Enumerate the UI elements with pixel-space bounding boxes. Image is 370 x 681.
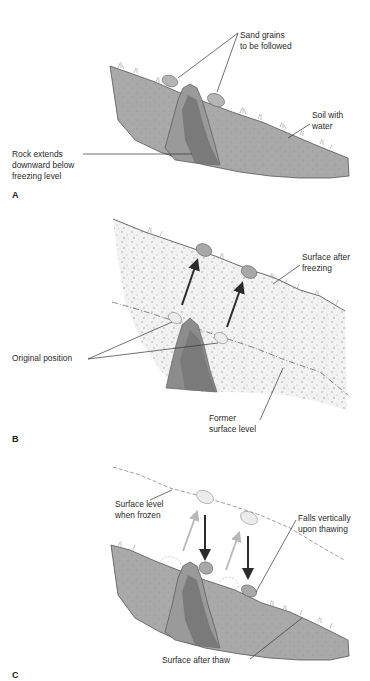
panel-label-c: C: [12, 670, 19, 680]
label-surface-level-when-frozen: Surface level when frozen: [114, 499, 166, 520]
arrow-up-light-right: [226, 536, 238, 570]
soil-block: [111, 545, 349, 660]
panel-c: Surface level when frozen Falls vertical…: [12, 467, 353, 680]
panel-label-b: B: [12, 434, 19, 444]
panel-b: Surface after freezing Original position…: [12, 219, 352, 444]
frozen-grain-right: [238, 509, 259, 527]
frozen-soil-block: [113, 219, 347, 410]
arrow-up-light-left: [183, 515, 196, 551]
panel-label-a: A: [12, 190, 19, 200]
label-soil-with-water: Soil with water: [311, 110, 346, 131]
label-falls-vertically: Falls vertically upon thawing: [298, 513, 353, 534]
label-rock-extends: Rock extends downward below freezing lev…: [12, 149, 77, 181]
frost-heave-diagram: Sand grains to be followed Soil with wat…: [0, 0, 370, 681]
label-surface-after-freezing: Surface after freezing: [302, 252, 352, 273]
label-former-surface-level: Former surface level: [209, 413, 256, 434]
panel-a: Sand grains to be followed Soil with wat…: [12, 30, 349, 200]
label-surface-after-thaw: Surface after thaw: [162, 655, 231, 665]
label-sand-grains: Sand grains to be followed: [240, 30, 292, 51]
label-original-position: Original position: [12, 353, 72, 363]
frozen-grain-left: [194, 488, 215, 506]
